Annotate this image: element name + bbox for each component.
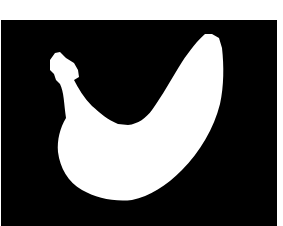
image-canvas (0, 0, 283, 226)
banana-silhouette (0, 0, 283, 226)
banana-shape (50, 34, 223, 201)
